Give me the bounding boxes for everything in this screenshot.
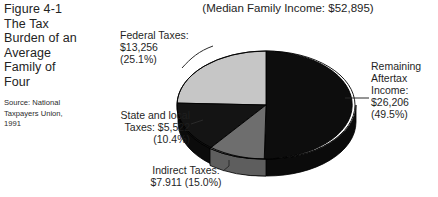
figure-container: Figure 4-1 The Tax Burden of an Average … [0,0,438,197]
callout-indirect-taxes: Indirect Taxes: $7.911 (15.0%) [112,165,260,189]
callout-federal-taxes: Federal Taxes: $13,256 (25.1%) [120,30,216,66]
callout-state-and-local-taxes: State and local Taxes: $5,522 (10.4%) [72,110,190,146]
callout-remaining-aftertax-income: Remaining Aftertax Income: $26,206 (49.5… [371,61,437,121]
